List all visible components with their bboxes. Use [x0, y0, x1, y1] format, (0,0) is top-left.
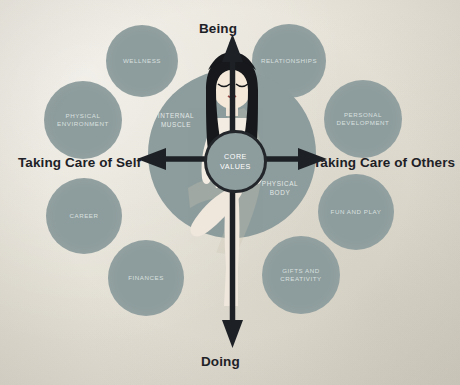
- satellite-personal-development-line2: DEVELOPMENT: [337, 119, 390, 126]
- quadrant-internal-muscle-line2: MUSCLE: [161, 121, 191, 128]
- satellite-circle-fun-and-play: FUN and PLAY: [318, 174, 394, 250]
- quadrant-label-physical-body: PHYSICAL BODY: [250, 180, 310, 197]
- satellite-label-physical-environment: PHYSICALENVIRONMENT: [54, 112, 112, 129]
- satellite-career-line1: CAREER: [69, 212, 98, 219]
- quadrant-physical-body-line2: BODY: [270, 189, 291, 196]
- life-balance-diagram: WELLNESSRELATIONSHIPSPHYSICALENVIRONMENT…: [0, 0, 460, 385]
- axis-label-taking-care-of-self: Taking Care of Self: [18, 155, 141, 170]
- satellite-circle-personal-development: PERSONALDEVELOPMENT: [324, 80, 402, 158]
- satellite-circle-physical-environment: PHYSICALENVIRONMENT: [44, 81, 122, 159]
- quadrant-physical-body-line1: PHYSICAL: [262, 180, 298, 187]
- satellite-label-career: CAREER: [66, 212, 101, 220]
- quadrant-internal-muscle-line1: INTERNAL: [158, 112, 194, 119]
- satellite-personal-development-line1: PERSONAL: [344, 111, 382, 118]
- core-values-line2: VALUES: [220, 162, 251, 171]
- satellite-circle-career: CAREER: [46, 178, 122, 254]
- axis-label-doing: Doing: [201, 354, 240, 369]
- satellite-physical-environment-line1: PHYSICAL: [65, 112, 100, 119]
- quadrant-label-internal-muscle: INTERNAL MUSCLE: [146, 112, 206, 129]
- core-values-hub: CORE VALUES: [204, 130, 267, 193]
- core-values-label: CORE VALUES: [220, 152, 251, 171]
- axis-label-being: Being: [199, 21, 237, 36]
- satellite-label-fun-and-play: FUN and PLAY: [328, 208, 385, 216]
- satellite-physical-environment-line2: ENVIRONMENT: [57, 120, 109, 127]
- satellite-fun-and-play-line1: FUN and PLAY: [331, 208, 382, 215]
- core-values-line1: CORE: [224, 152, 247, 161]
- satellite-label-personal-development: PERSONALDEVELOPMENT: [334, 111, 393, 128]
- axis-label-taking-care-of-others: Taking Care of Others: [313, 155, 455, 170]
